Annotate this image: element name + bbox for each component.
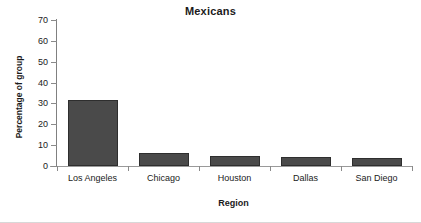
plot-area: 010203040506070: [57, 20, 412, 166]
x-axis-label: Los Angeles: [68, 173, 117, 183]
x-axis-line: [50, 166, 412, 167]
x-axis-title: Region: [56, 198, 411, 208]
y-tick-mark: [51, 83, 57, 84]
y-tick-mark: [51, 145, 57, 146]
bar-san-diego: [352, 158, 402, 166]
y-tick-label: 40: [38, 78, 48, 88]
x-tick-mark: [270, 166, 271, 171]
x-tick-mark: [57, 166, 58, 171]
y-tick-mark: [51, 62, 57, 63]
x-axis-label: San Diego: [355, 173, 397, 183]
y-tick-label: 70: [38, 15, 48, 25]
bar-chart: Mexicans Percentage of group 01020304050…: [0, 0, 421, 223]
bar-dallas: [281, 157, 331, 166]
y-tick-label: 20: [38, 119, 48, 129]
bar-houston: [210, 156, 260, 166]
y-tick-mark: [51, 20, 57, 21]
chart-title: Mexicans: [0, 5, 421, 17]
bar-los-angeles: [68, 100, 118, 166]
bar-chicago: [139, 153, 189, 166]
x-axis-label: Chicago: [147, 173, 180, 183]
x-tick-mark: [199, 166, 200, 171]
x-axis-label: Dallas: [293, 173, 318, 183]
x-tick-mark: [412, 166, 413, 171]
y-tick-mark: [51, 103, 57, 104]
x-tick-mark: [128, 166, 129, 171]
y-tick-label: 0: [43, 161, 48, 171]
y-axis-title: Percentage of group: [14, 32, 24, 162]
y-tick-mark: [51, 124, 57, 125]
y-tick-label: 60: [38, 36, 48, 46]
x-tick-mark: [341, 166, 342, 171]
y-tick-label: 50: [38, 57, 48, 67]
y-tick-label: 10: [38, 140, 48, 150]
x-axis-label: Houston: [218, 173, 252, 183]
y-tick-mark: [51, 41, 57, 42]
y-tick-label: 30: [38, 98, 48, 108]
